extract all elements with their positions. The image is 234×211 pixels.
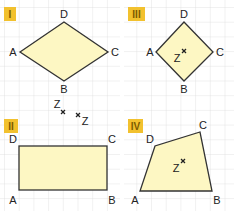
vertex-label-A: A: [9, 46, 17, 58]
vertex-label-A: A: [146, 46, 154, 58]
panel-badge-label: II: [8, 121, 14, 132]
vertex-label-D: D: [180, 8, 188, 20]
vertex-label-B: B: [60, 83, 67, 95]
vertex-label-D: D: [9, 133, 17, 145]
vertex-label-B: B: [213, 194, 220, 206]
column-divider: [120, 0, 124, 211]
point-label-Z: Z: [174, 52, 181, 64]
vertex-label-D: D: [60, 8, 68, 20]
point-label-Z: Z: [82, 115, 89, 127]
vertex-label-A: A: [131, 194, 139, 206]
point-label-Z: Z: [173, 162, 180, 174]
point-label-Z: Z: [54, 98, 61, 110]
panel-badge-label: III: [132, 9, 141, 20]
vertex-label-C: C: [111, 46, 119, 58]
vertex-label-D: D: [146, 133, 154, 145]
diagram-canvas: I A D C B III A D C B Z II A B C D Z Z I…: [0, 0, 234, 211]
panel-badge-label: IV: [131, 121, 141, 132]
rectangle-shape: [19, 146, 107, 190]
vertex-label-B: B: [180, 83, 187, 95]
vertex-label-B: B: [108, 194, 115, 206]
vertex-label-C: C: [216, 46, 224, 58]
panel-badge-label: I: [9, 9, 12, 20]
vertex-label-C: C: [108, 133, 116, 145]
vertex-label-A: A: [9, 194, 17, 206]
vertex-label-C: C: [199, 119, 207, 131]
